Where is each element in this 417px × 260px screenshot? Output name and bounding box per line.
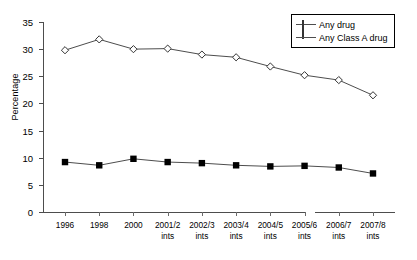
data-point-marker bbox=[369, 92, 376, 99]
y-tick-label: 5 bbox=[28, 179, 33, 190]
y-axis-title: Percentage bbox=[10, 52, 20, 142]
line-chart: Percentage 05101520253035 19961998200020… bbox=[0, 0, 417, 260]
legend-item-any-class-a-drug: Any Class A drug bbox=[296, 31, 388, 44]
x-tick bbox=[270, 212, 271, 216]
plot-area: 05101520253035 1996199820002001/2ints200… bbox=[43, 22, 395, 212]
legend-item-any-drug: Any drug bbox=[296, 18, 388, 31]
x-tick bbox=[305, 212, 306, 216]
x-tick-label: 2004/5ints bbox=[258, 220, 283, 241]
open-diamond-marker-icon bbox=[296, 19, 316, 30]
x-tick bbox=[168, 212, 169, 216]
data-point-marker bbox=[164, 45, 171, 52]
x-tick bbox=[202, 212, 203, 216]
filled-square-marker-icon bbox=[296, 32, 316, 43]
x-tick-label: 2007/8ints bbox=[360, 220, 385, 241]
data-point-marker bbox=[336, 164, 342, 170]
chart-legend: Any drug Any Class A drug bbox=[291, 14, 395, 48]
x-axis-line-segment-left bbox=[43, 212, 306, 213]
x-axis-line-segment-right bbox=[315, 212, 395, 213]
x-tick bbox=[133, 212, 134, 216]
x-tick-label: 2006/7ints bbox=[326, 220, 351, 241]
x-tick-label: 1998 bbox=[90, 220, 108, 231]
data-point-marker bbox=[62, 159, 68, 165]
x-tick bbox=[373, 212, 374, 216]
x-tick-label: 2000 bbox=[124, 220, 142, 231]
data-point-marker bbox=[267, 163, 273, 169]
y-tick-label: 30 bbox=[22, 44, 33, 55]
data-point-marker bbox=[233, 54, 240, 61]
series-line bbox=[65, 159, 373, 174]
x-tick bbox=[236, 212, 237, 216]
data-point-marker bbox=[335, 76, 342, 83]
legend-label-any-class-a-drug: Any Class A drug bbox=[319, 33, 388, 43]
data-point-marker bbox=[370, 170, 376, 176]
data-point-marker bbox=[96, 36, 103, 43]
x-tick-label: 1996 bbox=[56, 220, 74, 231]
data-point-marker bbox=[233, 162, 239, 168]
y-tick-label: 35 bbox=[22, 17, 33, 28]
data-point-marker bbox=[130, 46, 137, 53]
data-point-marker bbox=[199, 160, 205, 166]
y-tick-label: 0 bbox=[28, 207, 33, 218]
x-tick bbox=[65, 212, 66, 216]
x-tick bbox=[339, 212, 340, 216]
data-point-marker bbox=[301, 72, 308, 79]
x-tick-label: 2003/4ints bbox=[223, 220, 248, 241]
data-point-marker bbox=[130, 156, 136, 162]
legend-label-any-drug: Any drug bbox=[319, 20, 355, 30]
y-tick-label: 20 bbox=[22, 98, 33, 109]
y-tick-label: 10 bbox=[22, 152, 33, 163]
y-tick-label: 25 bbox=[22, 71, 33, 82]
x-tick-label: 2002/3ints bbox=[189, 220, 214, 241]
data-point-marker bbox=[198, 51, 205, 58]
data-point-marker bbox=[164, 159, 170, 165]
data-point-marker bbox=[301, 163, 307, 169]
data-point-marker bbox=[267, 63, 274, 70]
y-tick: 0 bbox=[39, 212, 43, 213]
y-tick-label: 15 bbox=[22, 125, 33, 136]
data-point-marker bbox=[61, 47, 68, 54]
x-tick-label: 2005/6ints bbox=[292, 220, 317, 241]
series-plot bbox=[43, 22, 395, 212]
x-tick-label: 2001/2ints bbox=[155, 220, 180, 241]
series-any-class-a-drug bbox=[62, 156, 376, 177]
data-point-marker bbox=[96, 162, 102, 168]
x-tick bbox=[99, 212, 100, 216]
